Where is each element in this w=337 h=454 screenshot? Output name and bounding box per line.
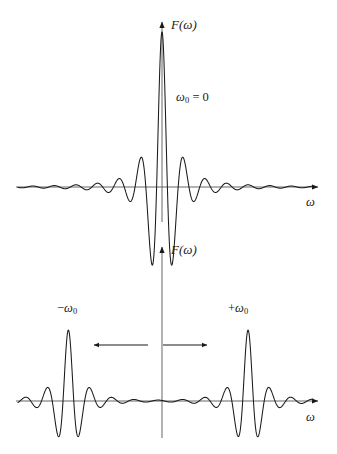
bottom-y-axis-label: F(ω)	[171, 243, 197, 256]
panel-top-axes	[16, 22, 318, 222]
plot-canvas	[0, 0, 337, 454]
fourier-spectrum-figure: F(ω) ω0 = 0 ω F(ω) −ω0 +ω0 ω	[0, 0, 337, 454]
top-center-frequency-annotation: ω0 = 0	[176, 91, 209, 105]
panel-bottom-axes	[16, 247, 318, 438]
top-spectrum-curve	[18, 32, 313, 265]
top-y-axis-label: F(ω)	[171, 18, 197, 31]
negative-omega0-label: −ω0	[57, 302, 77, 316]
bottom-spectrum-curve	[18, 330, 313, 437]
bottom-x-axis-label: ω	[306, 411, 315, 424]
positive-omega0-label: +ω0	[228, 302, 248, 316]
top-x-axis-label: ω	[306, 196, 315, 209]
